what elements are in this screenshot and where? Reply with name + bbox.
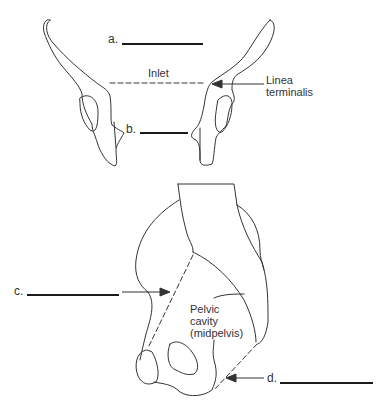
label-linea-terminalis-1: Linea: [266, 74, 293, 86]
ischial-spine-curve: [214, 294, 244, 298]
label-c: c.: [14, 285, 23, 297]
sacrum-top: [178, 184, 237, 205]
label-pelvic-cavity-1: Pelvic: [190, 303, 219, 315]
label-linea-terminalis-2: terminalis: [266, 86, 313, 98]
right-acetabulum: [215, 96, 232, 133]
answer-blank-c[interactable]: [27, 294, 119, 296]
label-b: b.: [126, 123, 136, 135]
ilium-outer: [136, 200, 179, 360]
label-a: a.: [108, 33, 118, 45]
pelvic-inlet-side: [148, 255, 193, 348]
ischium-lower: [154, 340, 216, 396]
label-inlet: Inlet: [148, 67, 169, 79]
left-ischial-line: [114, 122, 116, 148]
sacrum-left-edge: [178, 184, 193, 252]
pelvis-diagram: [0, 0, 384, 411]
ilium-right: [237, 205, 264, 270]
label-pelvic-cavity-3: (midpelvis): [190, 327, 243, 339]
pelvic-outlet-side: [214, 344, 257, 390]
right-hip-bone: [192, 20, 275, 165]
answer-blank-d[interactable]: [280, 382, 373, 384]
coccyx-back: [237, 205, 268, 344]
answer-blank-a[interactable]: [122, 43, 203, 45]
c-arrowhead: [160, 288, 170, 296]
label-d: d.: [267, 372, 277, 384]
answer-blank-b[interactable]: [140, 132, 188, 134]
pubis-oval: [136, 350, 158, 384]
label-pelvic-cavity-2: cavity: [190, 315, 218, 327]
obturator-foramen: [168, 342, 198, 375]
